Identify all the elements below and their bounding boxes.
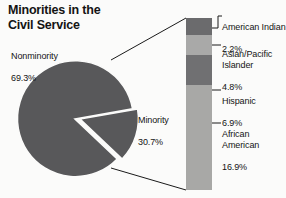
- callout-asian-pacific-islander-name: Asian/Pacific Islander: [222, 49, 272, 71]
- leader-line-top: [111, 18, 186, 60]
- pie-label-nonminority-value: 69.3%: [11, 73, 58, 84]
- pie-label-minority-value: 30.7%: [138, 137, 169, 148]
- bar-segment-hispanic[interactable]: [186, 55, 212, 85]
- bar-segment-asian-pacific-islander[interactable]: [186, 35, 212, 55]
- callout-african-american-value: 16.9%: [222, 162, 259, 173]
- bar-segment-american-indian[interactable]: [186, 18, 212, 35]
- pie-label-minority: Minority 30.7%: [138, 104, 169, 159]
- callout-american-indian-name: American Indian: [222, 22, 286, 33]
- leader-line-bottom: [111, 168, 186, 190]
- callout-line-american-indian: [212, 16, 222, 28]
- callout-hispanic-name: Hispanic: [222, 96, 256, 107]
- callout-african-american: African American 16.9%: [222, 118, 259, 184]
- bar-segment-african-american[interactable]: [186, 85, 212, 190]
- pie-label-nonminority-name: Nonminority: [11, 51, 58, 62]
- chart-figure: Minorities in the Civil Service Nonminor…: [0, 0, 286, 198]
- pie-label-minority-name: Minority: [138, 115, 169, 126]
- callout-african-american-name: African American: [222, 129, 259, 151]
- pie-label-nonminority: Nonminority 69.3%: [11, 40, 58, 95]
